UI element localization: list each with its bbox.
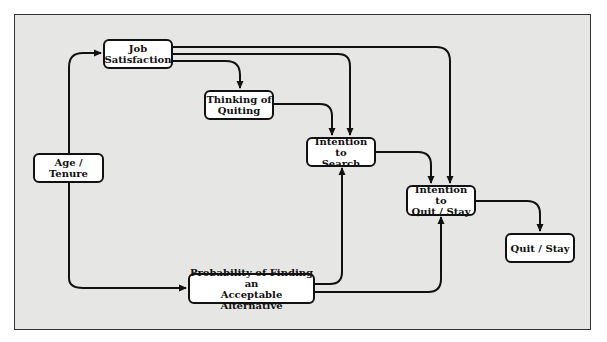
node-probability-alternative: Probability of Finding an Acceptable Alt…: [188, 273, 315, 304]
node-intention-to-quit-stay: Intention to Quit / Stay: [406, 185, 476, 216]
node-label: Intention to Quit / Stay: [408, 184, 474, 217]
node-label: Probability of Finding an Acceptable Alt…: [190, 267, 313, 311]
node-label: Thinking of Quiting: [206, 94, 271, 116]
node-label: Quit / Stay: [510, 243, 569, 254]
node-intention-to-search: Intention to Search: [306, 137, 376, 167]
node-label: Intention to Search: [308, 136, 374, 169]
node-label: Job Satisfaction: [105, 43, 172, 65]
node-quit-stay: Quit / Stay: [505, 233, 575, 263]
node-thinking-of-quiting: Thinking of Quiting: [204, 90, 274, 120]
node-job-satisfaction: Job Satisfaction: [103, 39, 173, 69]
node-age-tenure: Age / Tenure: [33, 153, 104, 183]
node-label: Age / Tenure: [35, 157, 102, 179]
